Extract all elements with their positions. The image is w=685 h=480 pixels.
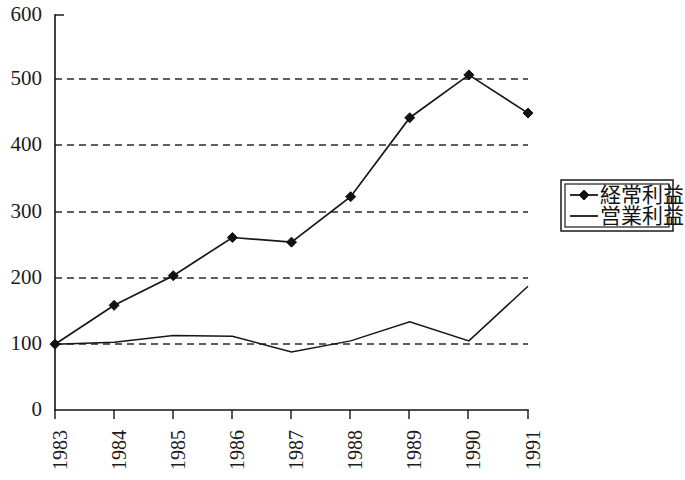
chart-container: 600 500 400 300 200 100 0 1983 1984 1985… bbox=[0, 0, 685, 480]
y-tick-label-100: 100 bbox=[11, 331, 43, 355]
x-tick-label-1991: 1991 bbox=[522, 430, 544, 470]
data-point-marker bbox=[109, 300, 119, 310]
series-operating-profit-line bbox=[55, 286, 528, 352]
x-tick-label-1986: 1986 bbox=[226, 430, 248, 470]
data-point-marker bbox=[227, 233, 237, 243]
series-ordinary-profit-markers bbox=[50, 70, 533, 349]
y-tick-label-600: 600 bbox=[11, 2, 43, 26]
x-tick-label-1985: 1985 bbox=[167, 430, 189, 470]
legend-label-operating-profit: 営業利益 bbox=[600, 204, 684, 228]
legend: 経常利益 営業利益 bbox=[561, 180, 684, 231]
gridlines bbox=[55, 79, 528, 344]
x-tick-label-1987: 1987 bbox=[285, 430, 307, 470]
y-tick-label-400: 400 bbox=[11, 132, 43, 156]
line-chart: 600 500 400 300 200 100 0 1983 1984 1985… bbox=[0, 0, 685, 480]
series-operating-profit bbox=[55, 286, 528, 352]
data-point-marker bbox=[523, 108, 533, 118]
y-tick-label-0: 0 bbox=[32, 397, 43, 421]
x-tick-labels: 1983 1984 1985 1986 1987 1988 1989 1990 … bbox=[49, 430, 544, 470]
y-tick-labels: 600 500 400 300 200 100 0 bbox=[11, 2, 43, 421]
data-point-marker bbox=[168, 271, 178, 281]
series-ordinary-profit bbox=[50, 70, 533, 349]
x-tick-label-1990: 1990 bbox=[462, 430, 484, 470]
y-tick-label-500: 500 bbox=[11, 66, 43, 90]
x-tick-label-1983: 1983 bbox=[49, 430, 71, 470]
x-tick-label-1984: 1984 bbox=[108, 430, 130, 470]
y-tick-label-200: 200 bbox=[11, 265, 43, 289]
y-tick-label-300: 300 bbox=[11, 199, 43, 223]
x-tick-label-1989: 1989 bbox=[403, 430, 425, 470]
x-axis bbox=[55, 410, 528, 419]
data-point-marker bbox=[50, 339, 60, 349]
series-ordinary-profit-line bbox=[55, 75, 528, 344]
x-tick-label-1988: 1988 bbox=[344, 430, 366, 470]
